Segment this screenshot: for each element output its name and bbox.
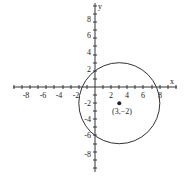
x-tick-label: -8 xyxy=(23,91,30,100)
coordinate-graph: y x -8 -6 -4 -2 2 4 6 8 8 6 4 2 -2 -4 -6… xyxy=(0,0,187,184)
y-axis-label: y xyxy=(98,2,102,11)
x-tick-label: -4 xyxy=(56,91,63,100)
x-axis-label: x xyxy=(170,77,174,86)
y-tick-label: -6 xyxy=(84,131,91,140)
x-tick-label: -6 xyxy=(40,91,47,100)
y-tick-label: 6 xyxy=(87,31,91,40)
center-label: (3,−2) xyxy=(112,107,132,116)
y-tick-label: 2 xyxy=(87,65,91,74)
x-tick-label: 4 xyxy=(125,91,129,100)
y-tick-label: -2 xyxy=(84,99,91,108)
y-tick-label: -8 xyxy=(84,150,91,159)
y-tick-label: 4 xyxy=(87,48,91,57)
y-tick-label: 8 xyxy=(87,15,91,24)
x-tick-label: 8 xyxy=(158,91,162,100)
y-tick-label: -4 xyxy=(84,115,91,124)
x-tick-label: 2 xyxy=(109,91,113,100)
x-tick-label: 6 xyxy=(141,91,145,100)
center-point xyxy=(117,101,121,105)
x-tick-label: -2 xyxy=(73,91,80,100)
